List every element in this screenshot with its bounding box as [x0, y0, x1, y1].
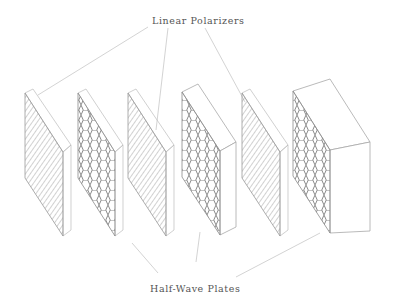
linear-polarizer-2 — [128, 89, 174, 236]
half-wave-plate-2 — [182, 84, 236, 235]
optical-stack-diagram — [0, 0, 397, 306]
bottom-leader-lines — [132, 232, 320, 277]
linear-polarizer-1 — [25, 89, 71, 236]
half-wave-plate-3 — [293, 79, 370, 233]
half-wave-plates-label: Half-Wave Plates — [150, 283, 240, 294]
linear-polarizer-3 — [242, 89, 288, 236]
half-wave-plate-1 — [78, 89, 123, 236]
linear-polarizers-label: Linear Polarizers — [152, 15, 245, 26]
